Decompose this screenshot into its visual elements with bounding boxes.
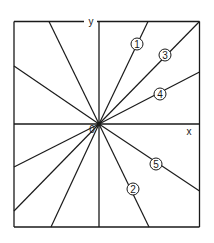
ray-unlabeled: [51, 124, 99, 227]
ray-unlabeled: [14, 66, 99, 124]
y-axis-label: y: [89, 16, 94, 27]
ray-unlabeled: [14, 124, 99, 211]
ray-label-2: 2: [130, 184, 136, 195]
diagram-canvas: 12345yx0: [0, 0, 214, 243]
ray-unlabeled: [14, 124, 99, 167]
ray-label-4: 4: [157, 89, 163, 100]
ray-unlabeled: [49, 22, 99, 125]
ray-5: [99, 124, 200, 191]
ray-3: [99, 22, 200, 125]
ray-label-5: 5: [153, 159, 159, 170]
ray-2: [99, 124, 149, 227]
ray-4: [99, 72, 200, 124]
x-axis-label: x: [187, 126, 192, 137]
origin-label: 0: [89, 124, 95, 135]
ray-label-3: 3: [162, 50, 168, 61]
ray-1: [99, 22, 148, 125]
origin-point: [97, 122, 101, 126]
ray-label-1: 1: [134, 39, 140, 50]
radial-line-diagram: 12345yx0: [0, 0, 214, 243]
